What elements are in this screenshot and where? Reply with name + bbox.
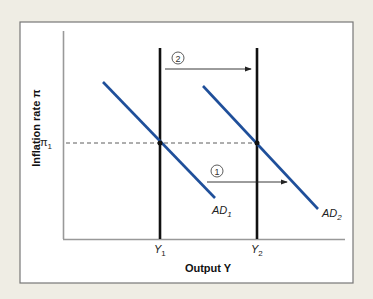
svg-text:2: 2 [175,54,180,64]
intersection-point-1 [158,141,163,146]
chart-frame [20,22,353,283]
chart-svg: 2 1 AD1 AD2 π1 Y1 Y2 Output Y Inflation … [0,0,373,299]
figure: 2 1 AD1 AD2 π1 Y1 Y2 Output Y Inflation … [0,0,373,299]
y-axis-title: Inflation rate π [30,89,42,167]
x-axis-title: Output Y [185,262,232,274]
intersection-point-2 [255,141,260,146]
svg-text:1: 1 [214,167,219,177]
